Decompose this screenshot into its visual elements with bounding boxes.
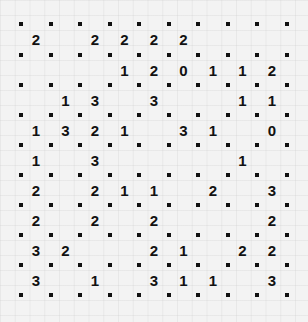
clue-cell[interactable]: 3 bbox=[169, 115, 199, 145]
clue-cell[interactable]: 2 bbox=[21, 175, 51, 205]
empty-cell[interactable] bbox=[169, 205, 199, 235]
clue-cell[interactable]: 2 bbox=[139, 235, 169, 265]
empty-cell[interactable] bbox=[228, 25, 258, 55]
clue-cell[interactable]: 1 bbox=[257, 85, 287, 115]
clue-cell[interactable]: 2 bbox=[80, 25, 110, 55]
empty-cell[interactable] bbox=[169, 145, 199, 175]
clue-cell[interactable]: 0 bbox=[257, 115, 287, 145]
empty-cell[interactable] bbox=[139, 145, 169, 175]
clue-cell[interactable]: 2 bbox=[139, 25, 169, 55]
empty-cell[interactable] bbox=[228, 205, 258, 235]
empty-cell[interactable] bbox=[198, 25, 228, 55]
clue-cell[interactable]: 1 bbox=[21, 115, 51, 145]
empty-cell[interactable] bbox=[228, 265, 258, 295]
clue-cell[interactable]: 2 bbox=[139, 205, 169, 235]
clue-cell[interactable]: 2 bbox=[169, 25, 199, 55]
empty-cell[interactable] bbox=[51, 25, 81, 55]
clue-cell[interactable]: 1 bbox=[51, 85, 81, 115]
clue-cell[interactable]: 1 bbox=[110, 115, 140, 145]
empty-cell[interactable] bbox=[139, 115, 169, 145]
clue-cell[interactable]: 3 bbox=[257, 175, 287, 205]
empty-cell[interactable] bbox=[198, 145, 228, 175]
empty-cell[interactable] bbox=[257, 25, 287, 55]
clue-cell[interactable]: 3 bbox=[51, 115, 81, 145]
clue-cell[interactable]: 1 bbox=[139, 175, 169, 205]
empty-cell[interactable] bbox=[198, 205, 228, 235]
clue-cell[interactable]: 3 bbox=[21, 235, 51, 265]
clue-cell[interactable]: 1 bbox=[228, 145, 258, 175]
clue-cell[interactable]: 1 bbox=[169, 235, 199, 265]
empty-cell[interactable] bbox=[169, 175, 199, 205]
empty-cell[interactable] bbox=[198, 235, 228, 265]
clue-cell[interactable]: 0 bbox=[169, 55, 199, 85]
empty-cell[interactable] bbox=[80, 235, 110, 265]
empty-cell[interactable] bbox=[51, 205, 81, 235]
clue-cell[interactable]: 2 bbox=[21, 25, 51, 55]
empty-cell[interactable] bbox=[51, 175, 81, 205]
clue-cell[interactable]: 1 bbox=[228, 85, 258, 115]
clue-cell[interactable]: 3 bbox=[139, 85, 169, 115]
empty-cell[interactable] bbox=[51, 265, 81, 295]
clue-cell[interactable]: 2 bbox=[80, 115, 110, 145]
empty-cell[interactable] bbox=[110, 205, 140, 235]
clue-cell[interactable]: 1 bbox=[228, 55, 258, 85]
empty-cell[interactable] bbox=[80, 55, 110, 85]
clue-cell[interactable]: 1 bbox=[198, 265, 228, 295]
empty-cell[interactable] bbox=[51, 55, 81, 85]
clue-cell[interactable]: 2 bbox=[228, 235, 258, 265]
clue-cell[interactable]: 2 bbox=[51, 235, 81, 265]
empty-cell[interactable] bbox=[110, 145, 140, 175]
clue-cell[interactable]: 1 bbox=[169, 265, 199, 295]
puzzle-board[interactable]: 2222212011213311132131013122112322223221… bbox=[0, 0, 308, 322]
empty-cell[interactable] bbox=[110, 235, 140, 265]
empty-cell[interactable] bbox=[110, 85, 140, 115]
clue-cell[interactable]: 1 bbox=[21, 145, 51, 175]
clue-cell[interactable]: 2 bbox=[257, 235, 287, 265]
clue-cell[interactable]: 2 bbox=[257, 55, 287, 85]
clue-cell[interactable]: 1 bbox=[80, 265, 110, 295]
empty-cell[interactable] bbox=[228, 115, 258, 145]
clue-cell[interactable]: 2 bbox=[198, 175, 228, 205]
empty-cell[interactable] bbox=[21, 85, 51, 115]
clue-cell[interactable]: 1 bbox=[110, 55, 140, 85]
empty-cell[interactable] bbox=[169, 85, 199, 115]
clue-cell[interactable]: 2 bbox=[110, 25, 140, 55]
clue-cell[interactable]: 2 bbox=[21, 205, 51, 235]
clue-cell[interactable]: 1 bbox=[110, 175, 140, 205]
empty-cell[interactable] bbox=[257, 145, 287, 175]
clue-cell[interactable]: 2 bbox=[257, 205, 287, 235]
empty-cell[interactable] bbox=[21, 55, 51, 85]
clue-cell[interactable]: 2 bbox=[80, 205, 110, 235]
clue-cell[interactable]: 2 bbox=[139, 55, 169, 85]
empty-cell[interactable] bbox=[110, 265, 140, 295]
clue-cell[interactable]: 1 bbox=[198, 115, 228, 145]
clue-cell[interactable]: 2 bbox=[80, 175, 110, 205]
clue-cell[interactable]: 3 bbox=[139, 265, 169, 295]
empty-cell[interactable] bbox=[228, 175, 258, 205]
clue-cell[interactable]: 3 bbox=[80, 145, 110, 175]
empty-cell[interactable] bbox=[198, 85, 228, 115]
clue-cell[interactable]: 3 bbox=[257, 265, 287, 295]
clue-cell[interactable]: 1 bbox=[198, 55, 228, 85]
empty-cell[interactable] bbox=[51, 145, 81, 175]
clue-cell[interactable]: 3 bbox=[21, 265, 51, 295]
clue-cell[interactable]: 3 bbox=[80, 85, 110, 115]
